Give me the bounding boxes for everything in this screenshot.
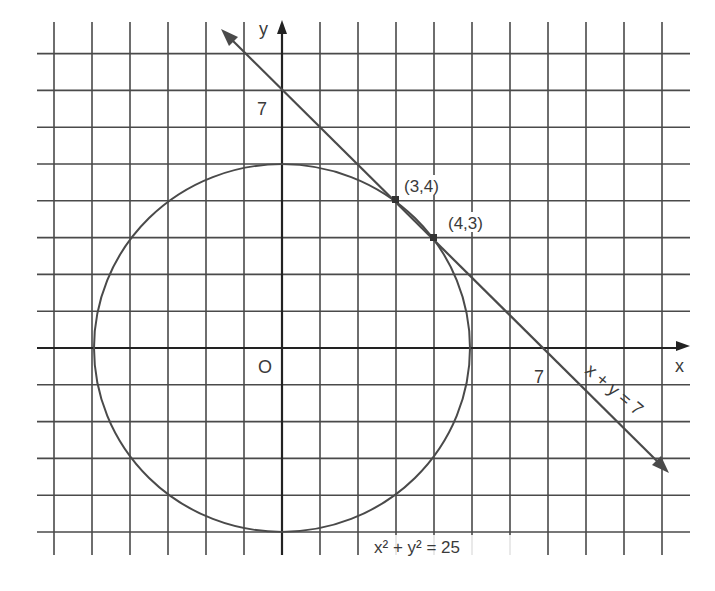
circle-equation-label: x² + y² = 25 [374,538,460,557]
x-axis-label: x [675,356,684,376]
point-marker-4-3 [430,234,437,241]
tangent-line [221,29,669,473]
line-equation-label: x + y = 7 [581,360,647,420]
point-label-4-3: (4,3) [448,214,483,233]
y-axis [277,20,287,555]
point-label-3-4: (3,4) [404,177,439,196]
x-axis [37,341,690,351]
y-axis-arrow-icon [277,20,287,34]
y-axis-label: y [259,19,268,39]
x-intercept-label: 7 [534,367,544,387]
x-axis-arrow-icon [676,341,690,351]
y-intercept-label: 7 [257,99,267,119]
point-marker-3-4 [392,196,399,203]
grid-lines [37,22,690,555]
coordinate-diagram: y x O 7 7 (3,4) (4,3) x + y = 7 x² + y² … [0,0,715,591]
origin-label: O [258,357,272,377]
